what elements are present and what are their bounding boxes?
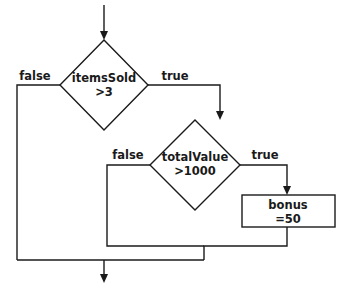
process-bonus-line1: bonus (268, 198, 308, 212)
edge-label-false-2: false (112, 148, 144, 162)
decision-total-value-line2: >1000 (174, 164, 216, 178)
edge-total-value-true: true (240, 148, 291, 195)
decision-items-sold-line1: itemsSold (72, 71, 136, 85)
merge-connectors (17, 227, 287, 260)
exit-arrow (100, 260, 108, 283)
edge-items-sold-false: false (17, 69, 60, 260)
decision-total-value: totalValue >1000 (150, 120, 240, 210)
flowchart: itemsSold >3 false true totalValue >1000… (0, 0, 353, 297)
process-bonus: bonus =50 (242, 195, 335, 227)
decision-items-sold: itemsSold >3 (60, 40, 148, 130)
edge-label-false-1: false (19, 69, 51, 83)
edge-label-true-2: true (251, 148, 278, 162)
entry-arrow (100, 5, 108, 40)
decision-total-value-line1: totalValue (162, 150, 229, 164)
decision-items-sold-line2: >3 (95, 85, 113, 99)
edge-label-true-1: true (161, 69, 188, 83)
edge-items-sold-true: true (148, 69, 224, 120)
process-bonus-line2: =50 (275, 212, 301, 226)
